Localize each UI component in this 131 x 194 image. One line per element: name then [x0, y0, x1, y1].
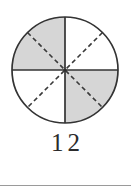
fraction-circle-figure: 1 2 [0, 0, 131, 194]
center-point [63, 68, 66, 71]
fraction-label: 1 2 [0, 130, 131, 156]
fraction-denominator: 2 [68, 129, 81, 156]
bottom-rule [0, 185, 131, 186]
fraction-stack: 1 2 [51, 130, 80, 156]
fraction-numerator: 1 [51, 129, 64, 156]
fraction-circle-diagram [0, 0, 131, 194]
